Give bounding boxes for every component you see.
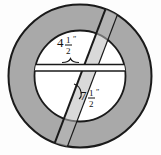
outer-diameter-unit: ″ bbox=[96, 88, 99, 97]
outer-diameter-numerator: 1 bbox=[89, 88, 94, 98]
figure-container: 4 1 2 ″ 7 1 2 ″ bbox=[0, 0, 161, 155]
inner-diameter-numerator: 1 bbox=[66, 35, 71, 45]
annulus-diagram: 4 1 2 ″ 7 1 2 ″ bbox=[0, 0, 161, 155]
outer-diameter-whole: 7 bbox=[80, 88, 87, 103]
inner-diameter-unit: ″ bbox=[73, 35, 76, 44]
outer-diameter-denominator: 2 bbox=[89, 99, 94, 109]
inner-diameter-whole: 4 bbox=[57, 35, 64, 50]
horizontal-band bbox=[30, 65, 130, 72]
inner-diameter-denominator: 2 bbox=[66, 46, 71, 56]
horizontal-band-fill bbox=[30, 65, 130, 72]
